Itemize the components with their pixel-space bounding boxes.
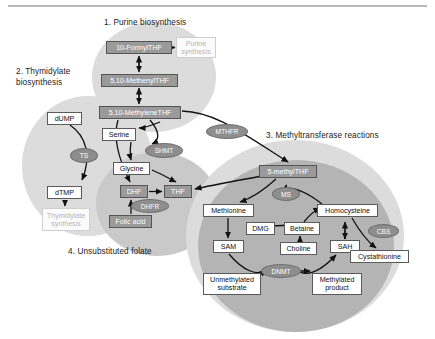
enzyme-ms[interactable]: MS <box>272 187 300 201</box>
diagram-canvas: 1. Purine biosynthesis 2. Thymidylate bi… <box>0 0 435 339</box>
node-5-10-methylenethf[interactable]: 5,10-MethyleneTHF <box>99 106 181 119</box>
node-unmethylated-substrate[interactable]: Unmethylated substrate <box>203 273 261 295</box>
enzyme-shmt[interactable]: SHMT <box>145 143 183 158</box>
node-thf[interactable]: THF <box>164 185 192 198</box>
enzyme-cbs[interactable]: CBS <box>368 224 399 238</box>
node-dhf[interactable]: DHF <box>120 185 148 198</box>
node-10-formylthf[interactable]: 10-FormylTHF <box>106 41 172 54</box>
node-dmg[interactable]: DMG <box>246 222 275 235</box>
section-heading-methyltransferase: 3. Methyltransferase reactions <box>266 131 416 142</box>
node-glycine[interactable]: Glycine <box>113 162 150 175</box>
node-sam[interactable]: SAM <box>213 240 244 253</box>
node-thymidylate-synthesis[interactable]: Thymidylate synthesis <box>42 208 90 231</box>
enzyme-mthfr[interactable]: MTHFR <box>206 124 248 139</box>
section-heading-unsubstituted: 4. Unsubstituted folate <box>68 247 198 258</box>
section-heading-purine: 1. Purine biosynthesis <box>104 18 234 29</box>
node-folic-acid[interactable]: Folic acid <box>109 215 152 228</box>
enzyme-ts[interactable]: TS <box>70 148 98 163</box>
node-homocysteine[interactable]: Homocysteine <box>317 204 378 217</box>
enzyme-dnmt[interactable]: DNMT <box>261 264 301 278</box>
node-5-methylthf[interactable]: 5-methylTHF <box>259 165 317 178</box>
section-heading-thymidylate: 2. Thymidylate biosynthesis <box>16 67 102 88</box>
node-choline[interactable]: Choline <box>280 242 317 255</box>
node-cystathionine[interactable]: Cystathionine <box>350 250 409 263</box>
node-methionine[interactable]: Methionine <box>203 204 254 217</box>
node-dtmp[interactable]: dTMP <box>47 186 82 199</box>
node-dump[interactable]: dUMP <box>47 112 82 125</box>
node-purine-synthesis[interactable]: Purine synthesis <box>176 37 216 58</box>
enzyme-dhfr[interactable]: DHFR <box>131 199 169 213</box>
node-serine[interactable]: Serine <box>102 128 136 141</box>
node-betaine[interactable]: Betaine <box>284 222 320 235</box>
node-methylated-product[interactable]: Methylated product <box>312 273 362 295</box>
node-5-10-methenylthf[interactable]: 5,10-MethenylTHF <box>101 74 178 87</box>
